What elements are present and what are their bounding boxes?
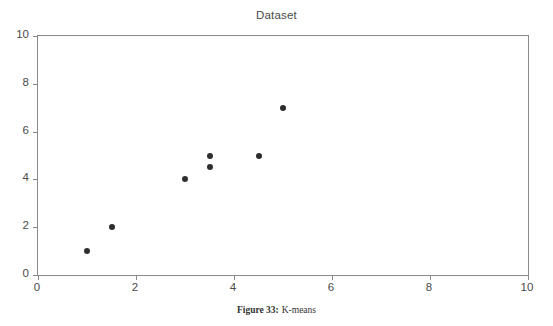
x-axis-tick: [234, 275, 235, 280]
x-axis-tick-label: 10: [507, 281, 547, 293]
figure-caption: Figure 33:K-means: [0, 305, 553, 315]
y-axis-tick: [33, 132, 38, 133]
y-axis-tick-label: 0: [3, 267, 29, 279]
y-axis-tick: [33, 227, 38, 228]
x-axis-tick: [332, 275, 333, 280]
data-point: [207, 153, 213, 159]
y-axis-tick-label: 6: [3, 124, 29, 136]
data-point: [109, 224, 115, 230]
data-point: [256, 153, 262, 159]
x-axis-tick: [528, 275, 529, 280]
x-axis-tick-label: 6: [311, 281, 351, 293]
y-axis-tick: [33, 36, 38, 37]
x-axis-tick-label: 8: [409, 281, 449, 293]
caption-text: K-means: [282, 305, 316, 315]
data-point: [84, 248, 90, 254]
data-point: [280, 105, 286, 111]
caption-label: Figure 33:: [237, 305, 279, 315]
plot-area: [37, 35, 529, 276]
y-axis-tick: [33, 179, 38, 180]
plot-canvas: [38, 36, 528, 275]
x-axis-tick-label: 4: [213, 281, 253, 293]
y-axis-tick-label: 4: [3, 171, 29, 183]
y-axis-tick: [33, 275, 38, 276]
y-axis-tick-label: 10: [3, 28, 29, 40]
data-point: [182, 176, 188, 182]
x-axis-tick: [38, 275, 39, 280]
y-axis-tick: [33, 84, 38, 85]
chart-title: Dataset: [0, 9, 553, 21]
x-axis-tick: [136, 275, 137, 280]
figure-container: Dataset Figure 33:K-means 02468100246810: [0, 0, 553, 326]
x-axis-tick-label: 0: [17, 281, 57, 293]
x-axis-tick-label: 2: [115, 281, 155, 293]
data-point: [207, 164, 213, 170]
y-axis-tick-label: 8: [3, 76, 29, 88]
x-axis-tick: [430, 275, 431, 280]
y-axis-tick-label: 2: [3, 219, 29, 231]
